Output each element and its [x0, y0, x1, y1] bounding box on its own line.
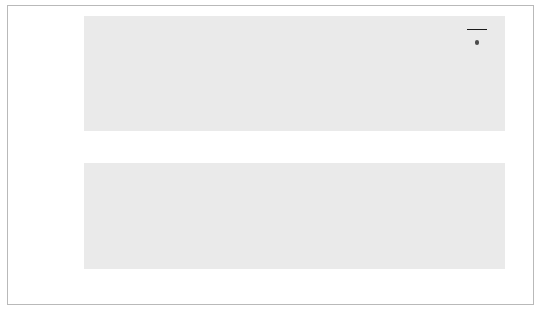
legend	[462, 20, 499, 52]
bar-chart-axes	[84, 163, 505, 269]
line-chart-axes	[84, 16, 505, 131]
legend-marker-icon	[466, 40, 488, 45]
figure	[0, 0, 541, 310]
analytical-line	[84, 16, 505, 131]
legend-item-analytical	[466, 23, 493, 36]
legend-line-icon	[466, 29, 488, 31]
legend-item-static	[466, 36, 493, 49]
